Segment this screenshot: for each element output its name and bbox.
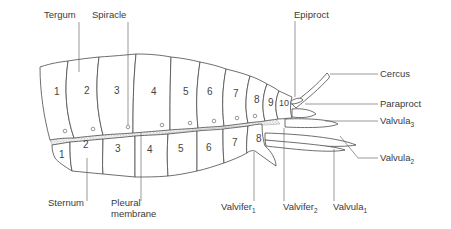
svg-text:3: 3: [114, 85, 120, 96]
abdomen-diagram: 1 2 3 4 5 6 7 8 9 10 1 2 3 4 5 6 7 8 T: [0, 0, 451, 229]
label-cercus: Cercus: [380, 68, 410, 79]
svg-text:5: 5: [178, 143, 184, 154]
label-tergum: Tergum: [44, 9, 76, 20]
spiracle-icon: [63, 129, 67, 133]
svg-text:3: 3: [115, 143, 121, 154]
svg-text:1: 1: [54, 86, 60, 97]
label-valvifer-1: Valvifer1: [221, 201, 256, 214]
svg-text:2: 2: [84, 85, 90, 96]
svg-text:5: 5: [183, 86, 189, 97]
svg-text:6: 6: [206, 142, 212, 153]
spiracle-icon: [91, 127, 95, 131]
svg-text:10: 10: [279, 98, 289, 108]
spiracle-icon: [160, 123, 164, 127]
svg-text:8: 8: [256, 133, 262, 144]
label-spiracle: Spiracle: [92, 9, 126, 20]
svg-text:2: 2: [83, 139, 89, 150]
spiracle-icon: [253, 114, 257, 118]
label-sternum: Sternum: [48, 197, 84, 208]
spiracle-icon: [212, 119, 216, 123]
svg-text:7: 7: [232, 137, 238, 148]
label-pleural-membrane-2: membrane: [111, 208, 156, 219]
label-valvula-3: Valvula3: [380, 115, 414, 128]
spiracle-icon: [126, 125, 130, 129]
label-paraproct: Paraproct: [380, 98, 422, 109]
svg-text:4: 4: [147, 144, 153, 155]
svg-text:7: 7: [233, 88, 239, 99]
label-valvula-2: Valvula2: [380, 152, 414, 165]
svg-text:8: 8: [254, 94, 260, 105]
svg-text:9: 9: [268, 97, 274, 108]
svg-text:6: 6: [207, 86, 213, 97]
label-valvifer-2: Valvifer2: [283, 201, 318, 214]
label-pleural-membrane-1: Pleural: [111, 197, 141, 208]
svg-text:1: 1: [59, 149, 65, 160]
spiracle-icon: [235, 116, 239, 120]
label-valvula-1: Valvula1: [333, 201, 367, 214]
spiracle-icon: [188, 121, 192, 125]
svg-text:4: 4: [151, 86, 157, 97]
label-epiproct: Epiproct: [294, 9, 329, 20]
